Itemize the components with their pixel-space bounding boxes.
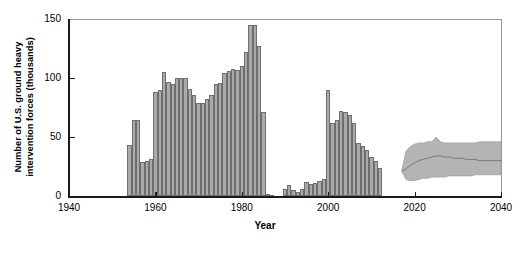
- y-tick-mark: [70, 78, 75, 79]
- bar: [261, 112, 265, 196]
- x-tick-mark: [242, 192, 243, 196]
- x-tick-mark: [415, 192, 416, 196]
- x-tick-mark: [501, 192, 502, 196]
- forecast-uncertainty-band: [402, 137, 501, 181]
- bar: [378, 168, 382, 196]
- x-axis-line: [68, 196, 502, 198]
- y-tick-mark: [70, 137, 75, 138]
- y-axis-line: [68, 19, 70, 198]
- x-tick-mark: [155, 192, 156, 196]
- x-tick-mark: [328, 192, 329, 196]
- chart-figure: Number of U.S. ground heavy intervention…: [0, 0, 530, 253]
- plot-area: [0, 0, 530, 253]
- x-axis-title: Year: [0, 220, 530, 231]
